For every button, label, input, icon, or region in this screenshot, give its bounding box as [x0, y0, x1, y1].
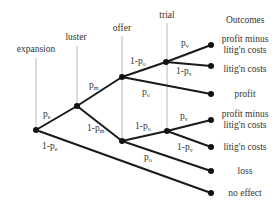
node-lower-trial [164, 128, 170, 134]
node-luster [74, 103, 80, 109]
edge-label-lower-one-minus-pv: 1-pv [177, 142, 193, 153]
decision-tree-diagram: expansion luster offer trial Outcomes pe… [0, 0, 276, 203]
stage-label-luster: luster [65, 32, 87, 42]
stage-label-expansion: expansion [17, 44, 56, 54]
edge-label-upper-one-minus-pv: 1-pv [176, 66, 192, 77]
edge-label-lower-po: po [144, 152, 152, 163]
outcome-5: litig'n costs [223, 142, 266, 152]
edge-luster-to-upper-offer [77, 77, 122, 106]
terminal-node-4 [208, 117, 214, 123]
edge-label-upper-po: po [142, 87, 150, 98]
outcome-6: loss [238, 166, 253, 176]
node-lower-offer [119, 138, 125, 144]
outcome-3: profit [234, 89, 255, 99]
edge-label-pe: pe [43, 109, 51, 120]
edge-label-upper-pv: pv [181, 38, 189, 49]
node-expansion [33, 127, 39, 133]
outcome-1-line1: profit minus [222, 34, 269, 44]
outcome-7: no effect [228, 188, 262, 198]
edge-lower-trial-to-profit-minus [167, 120, 211, 131]
outcomes-header: Outcomes [226, 15, 265, 25]
node-upper-offer [119, 74, 125, 80]
outcome-4-line2: litig'n costs [223, 120, 266, 130]
stage-label-offer: offer [113, 23, 132, 33]
terminal-node-5 [208, 144, 214, 150]
edge-lower-offer-to-trial [122, 131, 167, 141]
terminal-node-6 [208, 168, 214, 174]
node-upper-trial [163, 59, 169, 65]
terminal-node-1 [208, 42, 214, 48]
edge-label-lower-pv: pv [180, 111, 188, 122]
terminal-node-3 [208, 91, 214, 97]
stage-label-trial: trial [159, 10, 175, 20]
outcome-1-line2: litig'n costs [223, 45, 266, 55]
outcome-2: litig'n costs [223, 64, 266, 74]
edge-label-pm: pm [89, 80, 99, 91]
terminal-node-2 [208, 63, 214, 69]
edge-label-one-minus-pe: 1-pe [42, 141, 58, 152]
edge-label-lower-one-minus-po: 1-po [135, 121, 151, 132]
terminal-node-7 [208, 190, 214, 196]
edge-label-upper-one-minus-po: 1-po [130, 56, 146, 67]
outcome-4-line1: profit minus [222, 109, 269, 119]
